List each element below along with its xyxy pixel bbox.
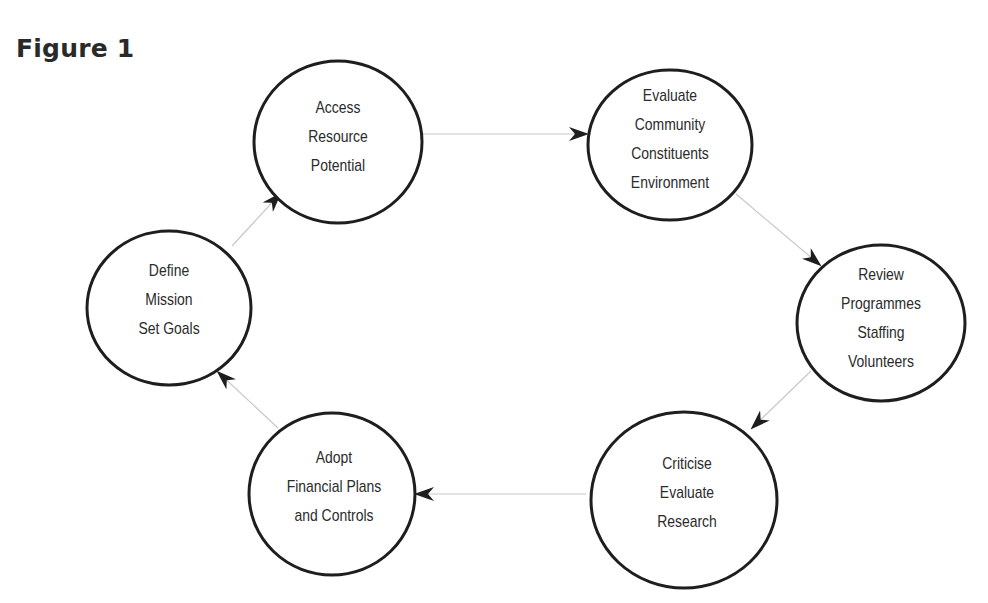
node-label-define: Define Mission Set Goals xyxy=(132,256,207,343)
node-line: Potential xyxy=(308,151,368,180)
node-line: Define xyxy=(138,256,199,285)
edge-define-to-access xyxy=(232,194,280,246)
node-line: Evaluate xyxy=(657,478,717,507)
node-label-access: Access Resource Potential xyxy=(302,93,375,180)
node-line: Research xyxy=(657,507,717,536)
edge-adopt-to-define xyxy=(218,372,278,428)
node-line: Financial Plans xyxy=(287,472,382,501)
node-line: Volunteers xyxy=(841,347,921,376)
node-label-adopt: Adopt Financial Plans and Controls xyxy=(276,443,391,530)
node-label-evaluate: Evaluate Community Constituents Environm… xyxy=(622,81,717,197)
node-line: Evaluate xyxy=(631,81,709,110)
node-line: Mission xyxy=(138,285,199,314)
node-line: Staffing xyxy=(841,318,921,347)
node-line: and Controls xyxy=(287,501,382,530)
node-line: Programmes xyxy=(841,289,921,318)
node-line: Criticise xyxy=(657,449,717,478)
node-line: Set Goals xyxy=(138,314,199,343)
node-label-review: Review Programmes Staffing Volunteers xyxy=(832,260,929,376)
node-label-criticise: Criticise Evaluate Research xyxy=(651,449,724,536)
node-line: Environment xyxy=(631,168,709,197)
edge-review-to-criticise xyxy=(752,371,811,428)
node-line: Constituents xyxy=(631,139,709,168)
node-line: Review xyxy=(841,260,921,289)
node-line: Community xyxy=(631,110,709,139)
node-line: Adopt xyxy=(287,443,382,472)
edge-evaluate-to-review xyxy=(736,194,820,265)
node-line: Resource xyxy=(308,122,368,151)
node-line: Access xyxy=(308,93,368,122)
